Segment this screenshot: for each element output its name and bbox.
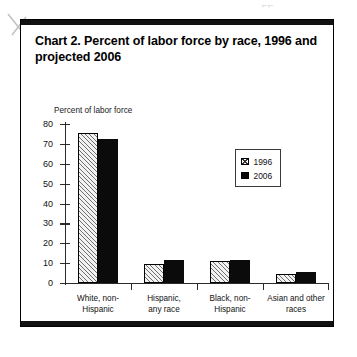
scan-artifact-top: ⌐⌐ (262, 1, 278, 9)
chart-legend: 1996 2006 (235, 149, 281, 187)
category-label-4: Asian and otherraces (263, 294, 329, 316)
category-label-line: Hispanic, (131, 294, 197, 305)
legend-item-1996: 1996 (241, 155, 280, 168)
y-tick-label-40: 40 (43, 199, 53, 209)
bar-2006-1 (98, 139, 118, 283)
y-tick-30 (60, 223, 70, 224)
x-tick-1 (131, 283, 132, 290)
bar-1996-3 (210, 261, 230, 283)
y-tick-40 (60, 204, 70, 205)
frame-top-rule (21, 20, 333, 25)
bar-2006-3 (230, 260, 250, 283)
y-tick-label-50: 50 (43, 179, 53, 189)
y-tick-20 (60, 243, 70, 244)
bar-1996-2 (144, 264, 164, 283)
category-label-line: Black, non- (197, 294, 263, 305)
y-tick-label-70: 70 (43, 139, 53, 149)
y-tick-label-80: 80 (43, 119, 53, 129)
bar-1996-1 (78, 133, 98, 283)
category-label-line: Asian and other (263, 294, 329, 305)
y-tick-label-0: 0 (48, 278, 53, 288)
y-tick-10 (60, 263, 70, 264)
legend-label-1996: 1996 (254, 157, 273, 167)
bar-2006-2 (164, 260, 184, 283)
legend-item-2006: 2006 (241, 169, 280, 182)
category-label-line: White, non- (65, 294, 131, 305)
x-tick-end (328, 283, 329, 290)
chart-title: Chart 2. Percent of labor force by race,… (35, 33, 321, 65)
category-label-2: Hispanic,any race (131, 294, 197, 316)
category-label-line: Hispanic (65, 305, 131, 316)
y-tick-label-60: 60 (43, 159, 53, 169)
category-label-3: Black, non-Hispanic (197, 294, 263, 316)
x-tick-3 (263, 283, 264, 290)
y-axis-title: Percent of labor force (54, 106, 132, 115)
y-tick-label-30: 30 (43, 218, 53, 228)
bar-1996-4 (276, 274, 296, 283)
x-tick-2 (197, 283, 198, 290)
y-tick-label-10: 10 (43, 258, 53, 268)
category-label-line: races (263, 305, 329, 316)
legend-swatch-2006-icon (241, 172, 249, 180)
y-tick-70 (60, 144, 70, 145)
y-tick-50 (60, 184, 70, 185)
y-tick-80 (60, 124, 70, 125)
category-label-line: any race (131, 305, 197, 316)
legend-label-2006: 2006 (254, 171, 273, 181)
y-tick-60 (60, 164, 70, 165)
chart-frame: Chart 2. Percent of labor force by race,… (20, 19, 334, 327)
bar-2006-4 (296, 272, 316, 283)
y-tick-0 (60, 283, 70, 284)
y-tick-label-20: 20 (43, 238, 53, 248)
plot-area: 01020304050607080 White, non-HispanicHis… (65, 124, 329, 283)
category-label-line: Hispanic (197, 305, 263, 316)
frame-bottom-rule (21, 321, 333, 326)
legend-swatch-1996-icon (241, 158, 249, 166)
category-label-1: White, non-Hispanic (65, 294, 131, 316)
